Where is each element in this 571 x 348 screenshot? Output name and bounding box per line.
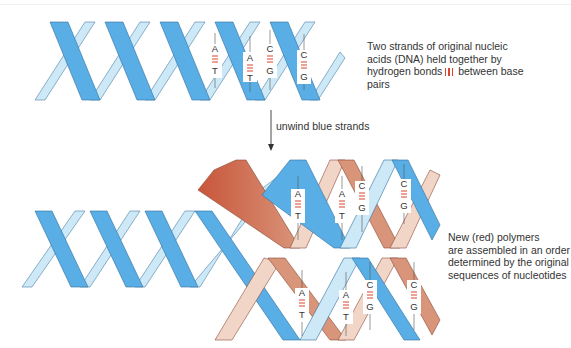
base-T: T xyxy=(299,309,305,320)
caption-line: hydrogen bonds between base xyxy=(367,65,567,78)
base-G: G xyxy=(300,71,307,82)
base-T: T xyxy=(339,210,345,221)
caption-text: between base xyxy=(458,65,523,77)
hydrogen-bond-icon xyxy=(445,68,455,76)
original-dna-helix: A T A T C G C G xyxy=(35,22,345,100)
unwind-arrow xyxy=(268,110,274,151)
base-A: A xyxy=(212,43,219,54)
base-G: G xyxy=(366,301,373,312)
base-T: T xyxy=(247,72,253,83)
base-G: G xyxy=(400,200,407,211)
caption-line: pairs xyxy=(367,78,567,91)
base-C: C xyxy=(401,178,408,189)
base-T: T xyxy=(212,65,218,76)
base-A: A xyxy=(339,188,346,199)
caption-line: acids (DNA) held together by xyxy=(367,53,567,66)
caption-text: hydrogen bonds xyxy=(367,65,442,77)
base-T: T xyxy=(295,210,301,221)
caption-line: New (red) polymers xyxy=(448,231,571,244)
base-A: A xyxy=(295,188,302,199)
base-T: T xyxy=(343,311,349,322)
base-G: G xyxy=(266,65,273,76)
base-G: G xyxy=(358,202,365,213)
base-C: C xyxy=(359,180,366,191)
caption-line: determined by the original xyxy=(448,256,571,269)
base-G: G xyxy=(410,301,417,312)
base-C: C xyxy=(267,43,274,54)
base-A: A xyxy=(299,287,306,298)
caption-line: Two strands of original nucleic xyxy=(367,40,567,53)
base-A: A xyxy=(247,52,254,63)
unwind-label: unwind blue strands xyxy=(276,120,369,133)
base-C: C xyxy=(411,279,418,290)
new-polymer-caption: New (red) polymers are assembled in an o… xyxy=(448,231,571,281)
base-A: A xyxy=(343,289,350,300)
base-C: C xyxy=(367,279,374,290)
caption-line: sequences of nucleotides xyxy=(448,269,571,282)
parental-unwound-helix xyxy=(22,160,306,340)
caption-line: are assembled in an order xyxy=(448,244,571,257)
original-dna-caption: Two strands of original nucleic acids (D… xyxy=(367,40,567,90)
base-C: C xyxy=(301,49,308,60)
